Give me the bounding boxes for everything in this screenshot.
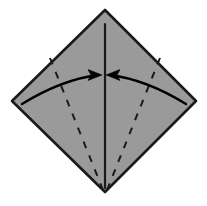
origami-canvas xyxy=(0,0,207,206)
origami-diagram-figure xyxy=(0,0,207,206)
